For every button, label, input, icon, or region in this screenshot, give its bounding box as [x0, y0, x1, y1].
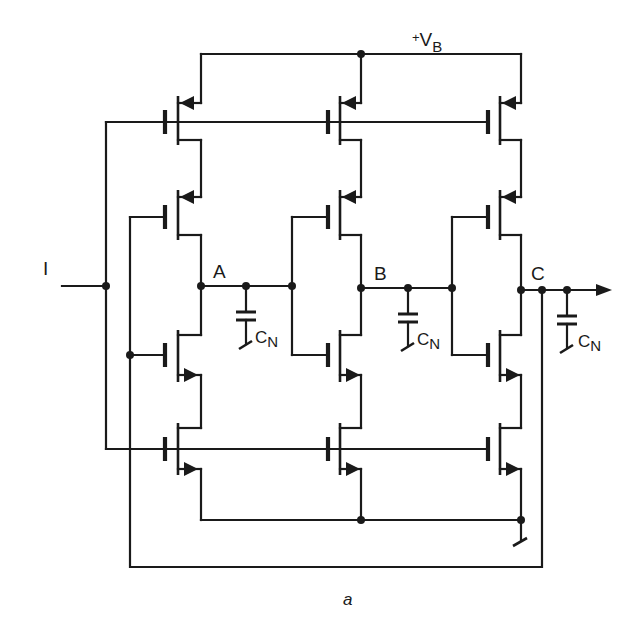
- transistor-pmos: [328, 190, 361, 240]
- stage-junction-dot: [448, 284, 456, 292]
- nmos-arrow-icon: [184, 462, 198, 476]
- transistor-pmos: [165, 96, 201, 145]
- node-c-dot: [517, 286, 525, 294]
- stage-junction-dot: [288, 282, 296, 290]
- transistor-pmos: [165, 190, 201, 240]
- cap-label-main: C: [417, 330, 429, 349]
- capacitor-cn: [236, 286, 256, 349]
- node-b-label: B: [374, 264, 387, 283]
- node-b-dot: [357, 284, 365, 292]
- nmos-arrow-icon: [506, 462, 520, 476]
- cap-label-sub: N: [267, 333, 278, 350]
- feedback-tap-dot: [538, 286, 546, 294]
- transistor-nmos: [488, 423, 521, 476]
- ring-oscillator-schematic: [0, 0, 639, 623]
- node-a-dot: [197, 282, 205, 290]
- pmos-arrow-icon: [342, 96, 356, 110]
- ground-junction-dot: [357, 516, 365, 524]
- supply-subscript: B: [432, 38, 442, 55]
- input-label: I: [43, 259, 48, 278]
- transistor-pmos: [488, 190, 521, 240]
- transistor-nmos: [328, 330, 361, 382]
- nmos-arrow-icon: [346, 368, 360, 382]
- cap-junction-dot: [242, 282, 250, 290]
- transistor-pmos: [328, 96, 361, 145]
- vb-junction-dot: [357, 50, 365, 58]
- output-arrow-icon: [596, 284, 612, 296]
- pmos-arrow-icon: [180, 190, 194, 204]
- cap-label-3: CN: [578, 333, 601, 350]
- transistor-nmos: [488, 330, 521, 382]
- node-a-label: A: [213, 262, 226, 281]
- supply-v: V: [420, 29, 433, 50]
- schematic-wires: [62, 54, 612, 567]
- ground-junction-dot: [517, 516, 525, 524]
- feedback-loop: [130, 217, 542, 567]
- feedback-junction-dot: [126, 351, 134, 359]
- capacitor-cn: [557, 290, 577, 353]
- nmos-arrow-icon: [506, 368, 520, 382]
- input-junction-dot: [102, 282, 110, 290]
- pmos-arrow-icon: [502, 96, 516, 110]
- cap-label-sub: N: [590, 337, 601, 354]
- supply-label: +VB: [412, 30, 442, 49]
- pmos-arrow-icon: [342, 190, 356, 204]
- capacitors: [236, 286, 577, 353]
- pmos-arrow-icon: [502, 190, 516, 204]
- figure-caption: a: [343, 591, 352, 608]
- cap-label-sub: N: [429, 335, 440, 352]
- pmos-arrow-icon: [180, 96, 194, 110]
- node-c-label: C: [531, 264, 545, 283]
- cap-label-1: CN: [255, 329, 278, 346]
- cap-junction-dot: [563, 286, 571, 294]
- transistor-nmos: [165, 330, 201, 382]
- cap-label-2: CN: [417, 331, 440, 348]
- transistor-pmos: [488, 96, 521, 145]
- nmos-arrow-icon: [346, 462, 360, 476]
- capacitor-cn: [398, 288, 418, 351]
- cap-label-main: C: [255, 328, 267, 347]
- nmos-arrow-icon: [184, 368, 198, 382]
- cap-junction-dot: [404, 284, 412, 292]
- cap-label-main: C: [578, 332, 590, 351]
